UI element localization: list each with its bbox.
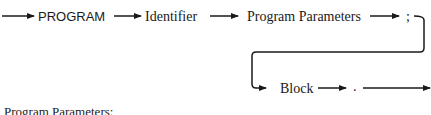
- connector-semicolon-block: [252, 16, 424, 88]
- node-period: .: [353, 79, 357, 94]
- node-block: Block: [280, 81, 313, 96]
- node-identifier: Identifier: [145, 9, 197, 24]
- caption-program-parameters: Program Parameters:: [4, 104, 113, 115]
- node-program: PROGRAM: [38, 9, 105, 24]
- node-program-parameters: Program Parameters: [247, 9, 361, 24]
- syntax-diagram: PROGRAM Identifier Program Parameters ; …: [0, 0, 431, 115]
- node-semicolon: ;: [406, 9, 410, 24]
